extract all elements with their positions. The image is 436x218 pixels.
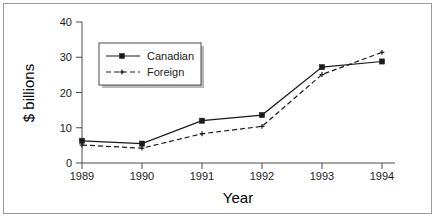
x-axis-title: Year xyxy=(223,189,253,206)
y-tick-labels: 40 30 20 10 0 xyxy=(60,16,72,169)
legend-marker-square-icon xyxy=(120,54,125,59)
y-axis-title: $ billions xyxy=(20,64,37,122)
x-tick-label-1994: 1994 xyxy=(370,170,394,182)
x-tick-label-1991: 1991 xyxy=(190,170,214,182)
data-point-foreign xyxy=(200,131,205,136)
legend-label-foreign: Foreign xyxy=(147,66,184,78)
legend: Canadian Foreign xyxy=(99,43,204,88)
data-point-canadian xyxy=(319,65,324,70)
y-tick-label-20: 20 xyxy=(60,87,72,99)
y-tick-label-10: 10 xyxy=(60,122,72,134)
x-tick-label-1993: 1993 xyxy=(310,170,334,182)
data-point-foreign xyxy=(380,50,385,55)
data-point-foreign xyxy=(140,146,145,151)
data-point-canadian xyxy=(199,118,204,123)
figure-container: 40 30 20 10 0 1989 1990 1991 1992 1993 1… xyxy=(0,0,436,218)
data-point-canadian xyxy=(79,138,84,143)
legend-label-canadian: Canadian xyxy=(147,50,194,62)
line-chart: 40 30 20 10 0 1989 1990 1991 1992 1993 1… xyxy=(0,0,436,218)
data-point-canadian xyxy=(259,112,264,117)
data-point-canadian xyxy=(379,59,384,64)
y-tick-label-40: 40 xyxy=(60,16,72,28)
x-tick-label-1992: 1992 xyxy=(250,170,274,182)
data-point-canadian xyxy=(139,141,144,146)
x-tick-label-1989: 1989 xyxy=(70,170,94,182)
y-tick-label-0: 0 xyxy=(66,157,72,169)
x-tick-label-1990: 1990 xyxy=(130,170,154,182)
y-tick-label-30: 30 xyxy=(60,51,72,63)
x-tick-labels: 1989 1990 1991 1992 1993 1994 xyxy=(70,170,394,182)
x-tick-marks xyxy=(82,163,382,169)
